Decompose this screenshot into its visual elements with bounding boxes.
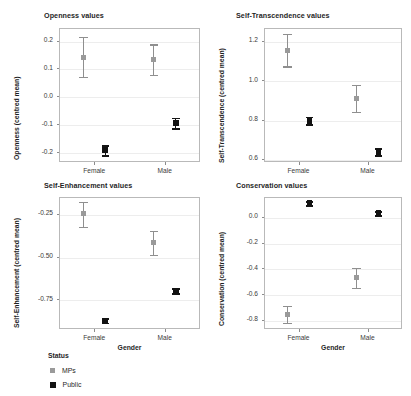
legend-swatch-mps <box>50 368 55 373</box>
legend-label: Public <box>63 381 82 388</box>
legend: StatusMPsPublic <box>0 0 411 396</box>
figure-canvas: Openness values0.20.10.0-0.1-0.2FemaleMa… <box>0 0 411 396</box>
legend-item-mps[interactable]: MPs <box>50 367 76 374</box>
legend-item-public[interactable]: Public <box>50 381 81 388</box>
legend-label: MPs <box>62 367 76 374</box>
legend-swatch-public <box>50 382 56 388</box>
legend-title: Status <box>48 352 69 359</box>
